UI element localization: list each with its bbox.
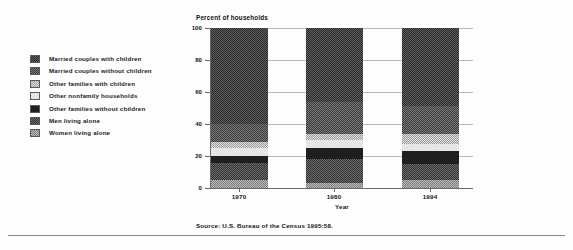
legend-item-label: Men living alone	[49, 117, 100, 125]
legend-swatch-icon	[30, 105, 40, 113]
legend-item: Women living alone	[30, 129, 152, 137]
legend-item-label: Married couples with children	[49, 55, 142, 63]
y-axis-title: Percent of households	[196, 14, 268, 21]
legend-item: Married couples with children	[30, 55, 152, 63]
legend-swatch-icon	[30, 67, 40, 75]
x-axis-tick-label: 1980	[304, 193, 364, 200]
chart-figure: Married couples with childrenMarried cou…	[0, 0, 573, 250]
legend-item: Men living alone	[30, 117, 152, 125]
source-note: Source: U.S. Bureau of the Census 1995:5…	[196, 222, 333, 229]
legend-item-label: Other nonfamily households	[49, 92, 138, 100]
bar-segment	[402, 144, 459, 151]
legend-item: Other families without children	[30, 105, 152, 113]
y-axis-tick-label: 60	[180, 89, 202, 95]
bar-stack	[211, 28, 268, 188]
bar-segment	[402, 180, 459, 188]
bar-segment	[402, 106, 459, 133]
legend-item-label: Other families without children	[49, 105, 145, 113]
legend-item: Other nonfamily households	[30, 92, 152, 100]
y-axis-tick-label: 20	[180, 153, 202, 159]
bar-segment	[402, 28, 459, 106]
legend-swatch-icon	[30, 80, 40, 88]
x-axis-tick-label: 1994	[400, 193, 460, 200]
y-axis-tick-label: 80	[180, 57, 202, 63]
bar-segment	[306, 148, 363, 159]
bar-stack	[402, 28, 459, 188]
y-axis-tick-label: 0	[180, 185, 202, 191]
legend-item: Other families with children	[30, 80, 152, 88]
x-axis-tick-mark	[430, 188, 431, 192]
bar-segment	[306, 102, 363, 134]
legend-swatch-icon	[30, 129, 40, 137]
bar-segment	[306, 140, 363, 148]
bar-segment	[211, 163, 268, 180]
legend-item-label: Married couples without children	[49, 67, 152, 75]
x-axis-tick-mark	[239, 188, 240, 192]
bar-segment	[402, 134, 459, 144]
bar-stack	[306, 28, 363, 188]
legend-item-label: Women living alone	[49, 129, 110, 137]
bar-segment	[211, 148, 268, 156]
x-axis-tick-label: 1970	[209, 193, 269, 200]
legend-item-label: Other families with children	[49, 80, 135, 88]
bar-segment	[211, 28, 268, 124]
chart-legend: Married couples with childrenMarried cou…	[30, 55, 152, 137]
y-axis-tick-label: 40	[180, 121, 202, 127]
legend-swatch-icon	[30, 55, 40, 63]
x-axis-line	[210, 188, 473, 189]
x-axis-tick-mark	[334, 188, 335, 192]
x-axis-title: Year	[312, 203, 372, 210]
bar-segment	[306, 28, 363, 102]
footer-divider	[8, 235, 565, 236]
bar-segment	[211, 124, 268, 142]
bar-segment	[306, 159, 363, 183]
y-axis-tick-mark	[205, 188, 210, 189]
legend-swatch-icon	[30, 92, 40, 100]
legend-swatch-icon	[30, 117, 40, 125]
bar-segment	[211, 180, 268, 188]
legend-item: Married couples without children	[30, 67, 152, 75]
y-axis-tick-label: 100	[180, 25, 202, 31]
bar-segment	[211, 156, 268, 163]
bar-segment	[402, 151, 459, 164]
bar-segment	[402, 164, 459, 180]
plot-area	[210, 28, 472, 188]
